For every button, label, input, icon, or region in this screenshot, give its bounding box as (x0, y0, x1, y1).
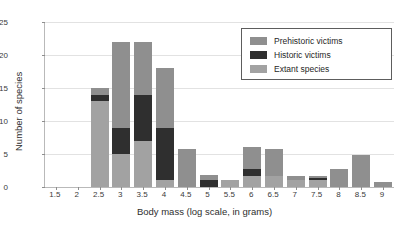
bar-segment (91, 95, 109, 102)
bar-segment (309, 178, 327, 180)
bar-stack (265, 149, 283, 187)
y-tick-label: 20 (0, 51, 8, 60)
bar-segment (374, 182, 392, 187)
bar-stack (178, 149, 196, 187)
bar-segment (91, 88, 109, 95)
legend-swatch (250, 37, 267, 45)
y-tick-label: 0 (0, 183, 8, 192)
bar-segment (221, 180, 239, 187)
y-tick-label: 10 (0, 117, 8, 126)
y-tick-label: 5 (0, 150, 8, 159)
bar-segment (178, 149, 196, 187)
bar-segment (200, 180, 218, 187)
y-tick-mark (42, 88, 45, 89)
y-tick-mark (42, 22, 45, 23)
bar-stack (221, 180, 239, 187)
x-axis-label: Body mass (log scale, in grams) (0, 206, 409, 217)
bar-segment (112, 128, 130, 154)
gridline (45, 22, 394, 23)
bar-segment (112, 154, 130, 187)
bar-stack (330, 169, 348, 187)
bar-stack (352, 155, 370, 187)
bar-stack (200, 175, 218, 187)
bar-segment (352, 155, 370, 187)
bar-segment (134, 95, 152, 141)
x-tick-label: 9 (369, 190, 395, 199)
chart-legend: Prehistoric victimsHistoric victimsExtan… (241, 28, 392, 80)
legend-item: Historic victims (250, 48, 385, 62)
y-tick-mark (42, 187, 45, 188)
chart-figure: Number of species Body mass (log scale, … (0, 0, 409, 229)
legend-item: Prehistoric victims (250, 34, 385, 48)
bar-segment (309, 176, 327, 179)
legend-label: Extant species (274, 64, 329, 74)
legend-swatch (250, 65, 267, 73)
bar-segment (91, 101, 109, 187)
bar-segment (243, 147, 261, 169)
bar-stack (156, 68, 174, 187)
y-tick-label: 25 (0, 18, 8, 27)
bar-segment (265, 176, 283, 187)
bar-stack (309, 176, 327, 187)
bar-segment (330, 169, 348, 187)
y-axis-label: Number of species (13, 72, 24, 151)
y-tick-mark (42, 154, 45, 155)
bar-segment (156, 128, 174, 181)
legend-item: Extant species (250, 62, 385, 76)
y-tick-mark (42, 121, 45, 122)
legend-swatch (250, 51, 267, 59)
bar-stack (374, 182, 392, 187)
bar-stack (91, 88, 109, 187)
bar-segment (243, 169, 261, 176)
bar-stack (112, 42, 130, 187)
bar-stack (134, 42, 152, 187)
legend-label: Historic victims (274, 50, 331, 60)
bar-stack (287, 176, 305, 187)
bar-segment (287, 180, 305, 187)
y-tick-label: 15 (0, 84, 8, 93)
bar-segment (112, 42, 130, 128)
legend-label: Prehistoric victims (274, 36, 342, 46)
bar-segment (156, 180, 174, 187)
bar-segment (134, 141, 152, 187)
bar-segment (200, 175, 218, 180)
bar-segment (243, 176, 261, 187)
bar-segment (265, 149, 283, 176)
bar-segment (134, 42, 152, 95)
bar-segment (156, 68, 174, 127)
bar-segment (287, 176, 305, 180)
bar-stack (243, 147, 261, 187)
y-tick-mark (42, 55, 45, 56)
bar-segment (309, 180, 327, 187)
